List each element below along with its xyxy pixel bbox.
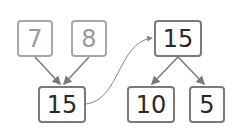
sum-box-15: 15 (38, 86, 86, 123)
arrow-15-to-5 (178, 57, 204, 84)
input-box-7: 7 (17, 20, 53, 57)
part-box-5: 5 (189, 86, 225, 123)
part-box-10: 10 (127, 86, 175, 123)
part-value-5: 5 (199, 91, 214, 119)
root-box-15: 15 (154, 20, 202, 57)
input-value-7: 7 (27, 25, 42, 53)
input-box-8: 8 (71, 20, 107, 57)
input-value-8: 8 (81, 25, 96, 53)
arrow-7-to-15 (35, 57, 60, 84)
arrow-15-to-10 (152, 57, 178, 84)
root-value-15: 15 (163, 25, 194, 53)
sum-value-15: 15 (47, 91, 78, 119)
part-value-10: 10 (136, 91, 167, 119)
arrow-8-to-15 (64, 57, 89, 84)
